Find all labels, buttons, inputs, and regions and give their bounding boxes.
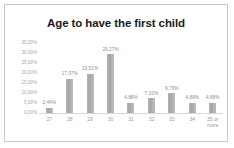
bar-value-label: 9,76% [165,87,179,92]
bar[interactable] [189,103,196,113]
y-axis-tick: 35,00% [21,41,37,46]
x-axis-tick: 32 [141,116,161,140]
bar-value-label: 2,44% [42,101,56,106]
y-axis-tick: 30,00% [21,51,37,56]
y-axis-tick: 15,00% [21,81,37,86]
bar[interactable] [209,103,216,113]
bar-value-label: 4,88% [124,96,138,101]
y-axis-tick: 10,00% [21,91,37,96]
x-axis-tick: 28 [59,116,79,140]
x-axis-tick: 35 or more [203,116,223,140]
x-axis-tick: 27 [39,116,59,140]
y-axis-tick: 5,00% [24,101,37,106]
bar-value-label: 17,07% [62,72,78,77]
bar[interactable] [66,79,73,113]
bar-value-label: 4,88% [185,96,199,101]
chart-title: Age to have the first child [5,17,227,29]
bar-value-label: 19,51% [82,67,98,72]
bar-series: 2,44%17,07%19,51%29,27%4,88%7,32%9,76%4,… [39,43,223,113]
x-axis-tick: 31 [121,116,141,140]
bar-slot: 19,51% [80,43,100,113]
y-axis-tick: 25,00% [21,61,37,66]
y-axis-tick: 20,00% [21,71,37,76]
bar[interactable] [46,108,53,113]
bar[interactable] [168,93,175,113]
y-axis-tick: 0,00% [24,111,37,116]
x-axis-tick: 33 [162,116,182,140]
bar-slot: 9,76% [162,43,182,113]
y-axis: 35,00%30,00%25,00%20,00%15,00%10,00%5,00… [7,43,37,113]
x-axis-line [39,113,223,114]
bar-slot: 2,44% [39,43,59,113]
bar-slot: 7,32% [141,43,161,113]
chart-frame: Age to have the first child 35,00%30,00%… [4,4,228,142]
bar-value-label: 29,27% [102,48,118,53]
bar-value-label: 7,32% [145,92,159,97]
bar[interactable] [87,74,94,113]
bar-value-label: 4,88% [206,96,220,101]
x-axis-labels: 272829303132333435 or more [39,116,223,140]
bar-slot: 17,07% [59,43,79,113]
bar[interactable] [148,98,155,113]
bar[interactable] [107,54,114,113]
bar-slot: 4,88% [121,43,141,113]
bar-slot: 4,88% [182,43,202,113]
x-axis-tick: 34 [182,116,202,140]
bar-slot: 29,27% [100,43,120,113]
bar-slot: 4,88% [203,43,223,113]
x-axis-tick: 30 [100,116,120,140]
bar[interactable] [127,103,134,113]
x-axis-tick: 29 [80,116,100,140]
